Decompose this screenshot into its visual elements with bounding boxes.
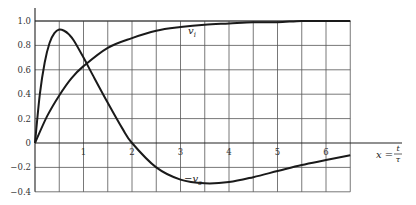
y-tick-label: 1.0 (17, 16, 31, 26)
svg-text:t: t (396, 144, 400, 153)
grid (35, 21, 350, 192)
y-tick-label: 0 (26, 138, 31, 148)
y-tick-label: −0.2 (10, 162, 31, 172)
series-vi-curve (35, 21, 350, 143)
svg-text:τ: τ (396, 155, 401, 164)
x-tick-label: 6 (323, 147, 328, 157)
line-chart: 1.00.80.60.40.20−0.2−0.4123456vi−vox =tτ (0, 0, 416, 205)
y-tick-labels: 1.00.80.60.40.20−0.2−0.4 (10, 16, 31, 197)
y-tick-label: 0.8 (17, 40, 31, 50)
x-tick-label: 5 (275, 147, 280, 157)
y-tick-label: 0.4 (17, 89, 31, 99)
x-tick-label: 2 (129, 147, 134, 157)
series-vo-curve (35, 29, 350, 183)
y-tick-label: −0.4 (10, 187, 31, 197)
x-tick-label: 1 (81, 147, 86, 157)
y-tick-label: 0.6 (17, 65, 31, 75)
svg-text:x =: x = (376, 149, 393, 160)
series-vi-label: vi (188, 25, 196, 39)
series-vo-label: −vo (184, 173, 202, 187)
y-tick-label: 0.2 (17, 114, 31, 124)
x-tick-label: 3 (178, 147, 183, 157)
x-axis-label: x =tτ (376, 144, 402, 164)
x-tick-label: 4 (226, 147, 231, 157)
